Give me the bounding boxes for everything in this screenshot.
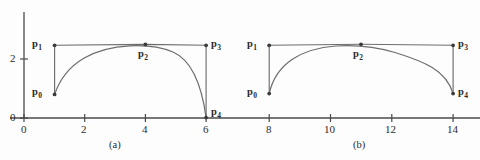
y-tick-label-2: 2 xyxy=(10,53,16,64)
control-point-label-p2-base: p xyxy=(353,48,359,59)
control-point-label-p0-base: p xyxy=(247,86,253,97)
bezier-curve-panel-a xyxy=(55,46,207,118)
control-point-p3 xyxy=(204,43,208,47)
x-tick-label-6: 6 xyxy=(203,124,209,135)
control-point-label-p0-sub: 0 xyxy=(38,91,42,100)
control-point-label-p2-sub: 2 xyxy=(144,53,148,62)
x-tick-label-0: 0 xyxy=(21,124,27,135)
control-point-p1 xyxy=(267,43,271,47)
control-point-label-p4-base: p xyxy=(458,86,464,97)
control-point-label-p4: p4 xyxy=(211,107,221,118)
control-point-label-p3-base: p xyxy=(458,38,464,49)
control-point-p0 xyxy=(53,93,57,97)
control-point-label-p1-base: p xyxy=(247,38,253,49)
x-tick-label-4: 4 xyxy=(142,124,148,135)
control-point-label-p2: p2 xyxy=(138,49,148,60)
control-point-label-p0-sub: 0 xyxy=(253,91,257,100)
control-point-label-p1: p1 xyxy=(247,39,257,50)
control-point-label-p3-sub: 3 xyxy=(217,43,221,52)
x-tick-label-12: 12 xyxy=(385,124,396,135)
control-point-label-p1-sub: 1 xyxy=(38,43,42,52)
x-tick-label-8: 8 xyxy=(266,124,272,135)
control-point-label-p3-sub: 3 xyxy=(464,43,468,52)
control-point-label-p4-sub: 4 xyxy=(464,91,468,100)
control-point-label-p1: p1 xyxy=(32,39,42,50)
control-point-label-p2: p2 xyxy=(353,49,363,60)
y-tick-label-0: 0 xyxy=(10,112,16,123)
control-point-p4 xyxy=(451,92,455,96)
control-point-label-p2-base: p xyxy=(138,48,144,59)
control-point-label-p2-sub: 2 xyxy=(359,53,363,62)
control-point-label-p3: p3 xyxy=(458,39,468,50)
x-tick-label-2: 2 xyxy=(81,124,87,135)
figure-container: 2 0 0 2 4 6 8 10 12 14 p1 p0 p2 p3 p4 p1… xyxy=(0,0,480,160)
control-point-label-p4-sub: 4 xyxy=(217,111,221,120)
control-point-label-p4-base: p xyxy=(211,106,217,117)
control-point-p2 xyxy=(359,42,363,46)
control-point-label-p0: p0 xyxy=(247,87,257,98)
control-point-markers-panel-a xyxy=(53,43,208,120)
x-tick-label-10: 10 xyxy=(324,124,335,135)
control-point-label-p0-base: p xyxy=(32,86,38,97)
panel-caption-b: (b) xyxy=(353,140,365,151)
control-point-p0 xyxy=(267,92,271,96)
control-point-label-p1-sub: 1 xyxy=(253,43,257,52)
control-point-label-p3-base: p xyxy=(211,38,217,49)
control-point-label-p0: p0 xyxy=(32,87,42,98)
control-point-p3 xyxy=(451,43,455,47)
control-point-label-p3: p3 xyxy=(211,39,221,50)
control-point-p4 xyxy=(204,116,208,120)
control-point-label-p4: p4 xyxy=(458,87,468,98)
x-tick-label-14: 14 xyxy=(447,124,458,135)
control-point-p1 xyxy=(53,43,57,47)
control-point-p2 xyxy=(144,43,148,47)
panel-caption-a: (a) xyxy=(109,140,121,151)
control-polygon-panel-a xyxy=(55,44,207,117)
figure-canvas xyxy=(0,0,480,160)
control-point-label-p1-base: p xyxy=(32,38,38,49)
